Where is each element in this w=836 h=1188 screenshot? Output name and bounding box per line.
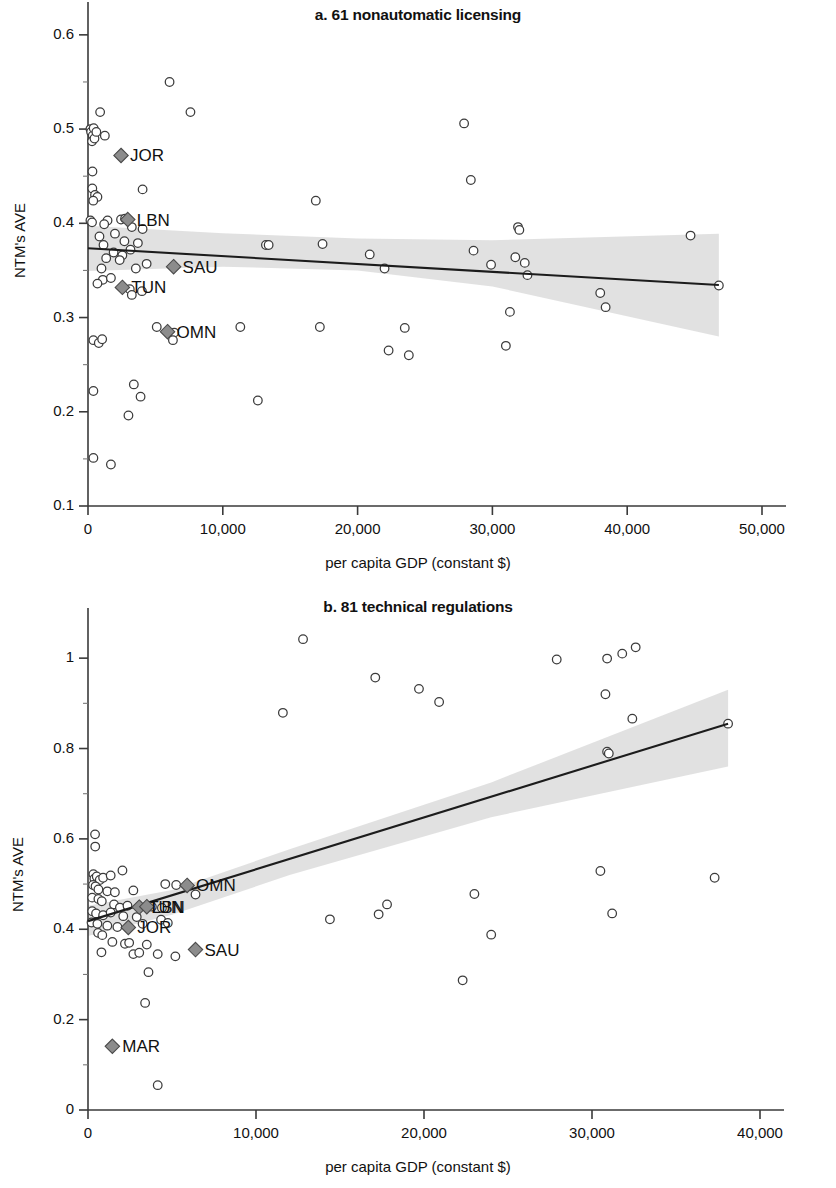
- country-label-omn: OMN: [196, 876, 236, 895]
- y-tick-label: 0.8: [0, 739, 74, 756]
- x-tick-label: 50,000: [712, 520, 812, 537]
- country-label-mar: MAR: [122, 1037, 160, 1056]
- x-tick-label: 20,000: [374, 1124, 474, 1141]
- x-tick-label: 30,000: [542, 1124, 642, 1141]
- highlighted-country-mar: MAR: [105, 1037, 160, 1056]
- highlighted-country-tun: TUN: [115, 278, 166, 297]
- x-tick-label: 10,000: [173, 520, 273, 537]
- y-tick-label: 1: [0, 648, 74, 665]
- y-tick-label: 0.2: [0, 402, 74, 419]
- y-tick-label: 0.5: [0, 119, 74, 136]
- x-tick-label: 40,000: [710, 1124, 810, 1141]
- y-tick-label: 0.4: [0, 919, 74, 936]
- highlighted-country-jor: JOR: [121, 918, 171, 937]
- x-tick-label: 10,000: [206, 1124, 306, 1141]
- country-label-tun: TUN: [131, 278, 166, 297]
- highlighted-country-jor: JOR: [114, 146, 164, 165]
- highlighted-country-sau: SAU: [188, 941, 239, 960]
- y-tick-label: 0.3: [0, 308, 74, 325]
- y-tick-label: 0.6: [0, 829, 74, 846]
- panel-b-plot: OMNTUNLBNJORSAUMAR: [0, 594, 836, 1188]
- x-tick-label: 40,000: [577, 520, 677, 537]
- x-tick-label: 30,000: [442, 520, 542, 537]
- x-tick-label: 20,000: [308, 520, 408, 537]
- highlighted-country-sau: SAU: [166, 258, 217, 277]
- y-tick-label: 0.4: [0, 213, 74, 230]
- country-label-jor: JOR: [137, 918, 171, 937]
- y-tick-label: 0.6: [0, 25, 74, 42]
- x-tick-label: 0: [38, 1124, 138, 1141]
- country-label-jor: JOR: [130, 146, 164, 165]
- country-label-sau: SAU: [183, 258, 218, 277]
- y-tick-label: 0.2: [0, 1010, 74, 1027]
- highlighted-country-lbn: LBN: [121, 211, 170, 230]
- country-label-sau: SAU: [205, 941, 240, 960]
- country-label-omn: OMN: [177, 323, 217, 342]
- y-tick-label: 0.1: [0, 496, 74, 513]
- highlighted-country-lbn: LBN: [140, 898, 185, 917]
- y-tick-label: 0: [0, 1100, 74, 1117]
- country-label-lbn: LBN: [152, 898, 185, 917]
- x-tick-label: 0: [38, 520, 138, 537]
- panel-b-technical-regulations: b. 81 technical regulations NTM's AVE pe…: [0, 594, 836, 1188]
- panel-a-plot: JORLBNSAUTUNOMN: [0, 0, 836, 594]
- country-label-lbn: LBN: [137, 211, 170, 230]
- panel-a-nonautomatic-licensing: a. 61 nonautomatic licensing NTM's AVE p…: [0, 0, 836, 594]
